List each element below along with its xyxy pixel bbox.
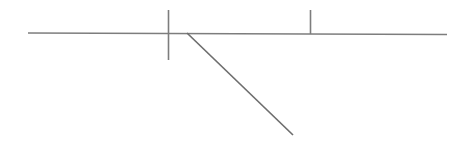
figure-svg [0,0,469,142]
horizontal-baseline [28,33,447,35]
drawing-canvas [0,0,469,142]
diagonal-descender [187,33,293,135]
